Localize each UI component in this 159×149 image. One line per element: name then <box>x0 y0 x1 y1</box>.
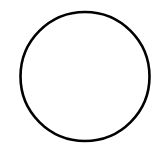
diagram-canvas <box>0 0 159 149</box>
background <box>0 0 159 149</box>
